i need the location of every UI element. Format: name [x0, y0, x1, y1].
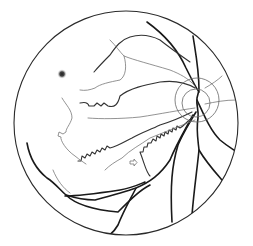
- fundus-boundary: [14, 11, 238, 235]
- macular-spot: [57, 69, 67, 79]
- fundus-diagram: [0, 0, 253, 246]
